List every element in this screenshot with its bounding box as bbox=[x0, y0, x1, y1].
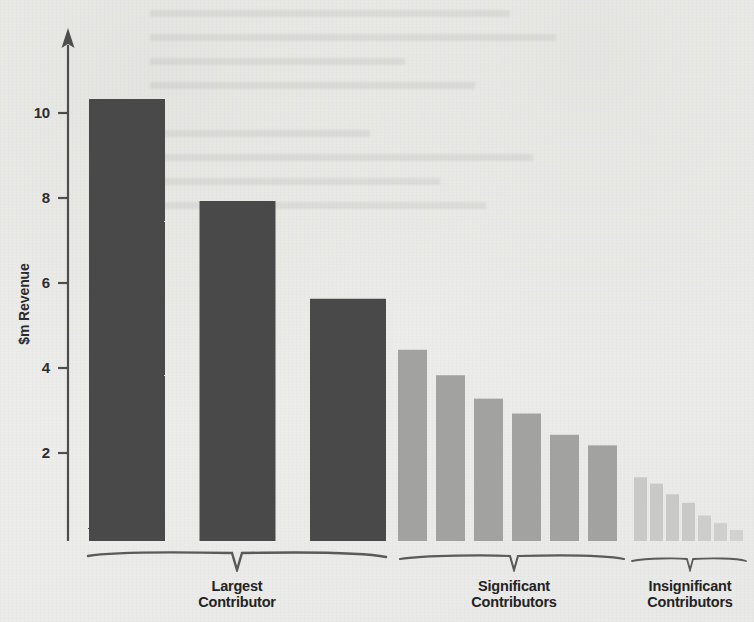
y-tick-label-10: 10 bbox=[16, 104, 50, 121]
bar bbox=[666, 494, 679, 541]
bar bbox=[398, 350, 427, 541]
group-braces bbox=[88, 552, 746, 570]
brace-insignificant-contributors bbox=[632, 558, 746, 570]
bar-chart-plot bbox=[0, 0, 754, 622]
bar bbox=[714, 523, 727, 541]
group-label-largest-contributor: Largest Contributor bbox=[167, 578, 307, 610]
bar bbox=[698, 516, 711, 542]
y-tick-label-2: 2 bbox=[16, 444, 50, 461]
bar bbox=[588, 445, 617, 541]
group-label-significant-contributors: Significant Contributors bbox=[444, 578, 584, 610]
bar bbox=[730, 530, 743, 541]
bar bbox=[682, 503, 695, 541]
bar-group-insignificant-contributors bbox=[634, 477, 743, 541]
group-label-line1: Significant bbox=[444, 578, 584, 594]
bar bbox=[550, 435, 579, 541]
group-label-line2: Contributors bbox=[620, 594, 754, 610]
y-axis bbox=[58, 28, 75, 541]
bar-group-largest-contributor bbox=[89, 99, 386, 541]
bar bbox=[650, 484, 663, 541]
bar bbox=[436, 375, 465, 541]
bar-group-significant-contributors bbox=[398, 350, 617, 541]
bar bbox=[310, 299, 386, 541]
group-label-insignificant-contributors: Insignificant Contributors bbox=[620, 578, 754, 610]
bar bbox=[634, 477, 647, 541]
brace-significant-contributors bbox=[400, 555, 624, 570]
y-tick-label-8: 8 bbox=[16, 189, 50, 206]
bar bbox=[474, 399, 503, 541]
group-label-line2: Contributors bbox=[444, 594, 584, 610]
brace-largest-contributor bbox=[88, 552, 386, 570]
y-axis-title: $m Revenue bbox=[16, 244, 32, 364]
group-label-line2: Contributor bbox=[167, 594, 307, 610]
bar bbox=[512, 414, 541, 542]
bar bbox=[200, 201, 276, 541]
chart-figure: 10 8 6 4 2 $m Revenue Largest Contributo… bbox=[0, 0, 754, 622]
bar bbox=[89, 99, 165, 541]
group-label-line1: Largest bbox=[167, 578, 307, 594]
group-label-line1: Insignificant bbox=[620, 578, 754, 594]
